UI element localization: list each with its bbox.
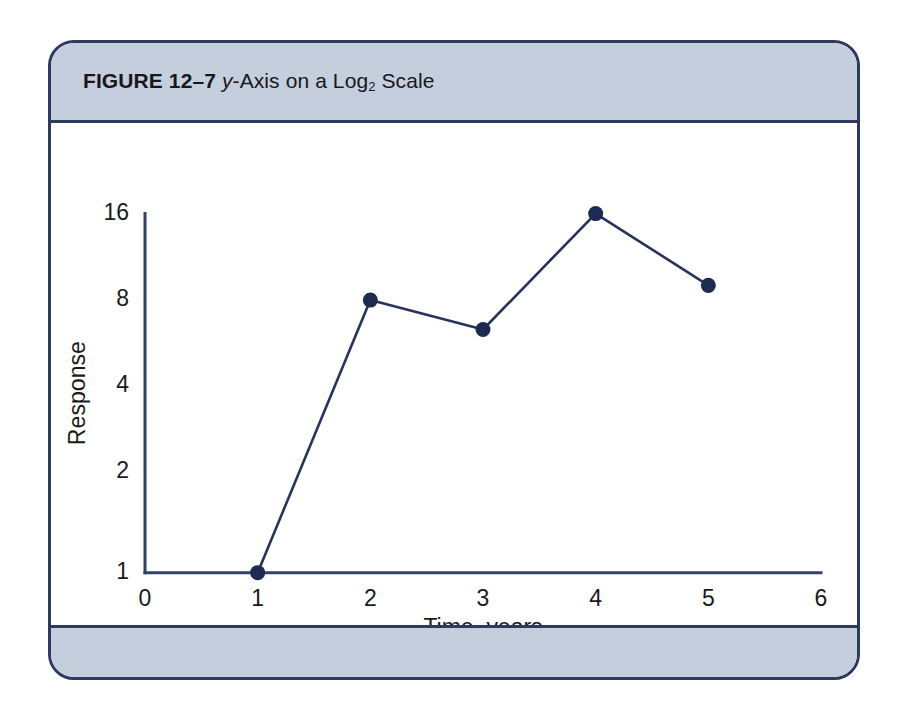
y-axis-tick-labels: 124816 <box>103 199 129 584</box>
line-chart: 124816 0123456 Response Time, years <box>51 123 857 625</box>
x-tick-5: 5 <box>702 585 715 611</box>
figure-title: FIGURE 12–7 y-Axis on a Log2 Scale <box>83 69 435 94</box>
x-tick-2: 2 <box>364 585 377 611</box>
y-tick-16: 16 <box>103 199 129 225</box>
data-point-5 <box>701 278 716 293</box>
figure-frame: FIGURE 12–7 y-Axis on a Log2 Scale 12481… <box>48 40 860 680</box>
x-axis-title: Time, years <box>423 614 542 625</box>
data-series-line <box>258 214 709 573</box>
x-tick-1: 1 <box>251 585 264 611</box>
y-tick-4: 4 <box>116 371 129 397</box>
data-point-2 <box>363 293 378 308</box>
figure-title-text-b: Scale <box>376 69 435 92</box>
data-point-4 <box>588 206 603 221</box>
plot-panel: 124816 0123456 Response Time, years <box>51 123 857 625</box>
x-tick-3: 3 <box>477 585 490 611</box>
y-tick-2: 2 <box>116 457 129 483</box>
x-tick-4: 4 <box>589 585 602 611</box>
y-tick-8: 8 <box>116 285 129 311</box>
y-tick-1: 1 <box>116 558 129 584</box>
data-point-3 <box>476 322 491 337</box>
figure-title-variable: y <box>222 69 233 92</box>
figure-title-text-a: -Axis on a Log <box>233 69 369 92</box>
data-point-1 <box>250 565 265 580</box>
x-tick-6: 6 <box>815 585 828 611</box>
figure-header-band: FIGURE 12–7 y-Axis on a Log2 Scale <box>51 43 857 123</box>
figure-title-subscript: 2 <box>368 79 375 94</box>
data-point-markers <box>250 206 716 580</box>
x-tick-0: 0 <box>139 585 152 611</box>
y-axis-title: Response <box>64 341 90 445</box>
figure-number: FIGURE 12–7 <box>83 69 216 92</box>
x-axis-tick-labels: 0123456 <box>139 585 828 611</box>
figure-footer-band <box>51 625 857 677</box>
